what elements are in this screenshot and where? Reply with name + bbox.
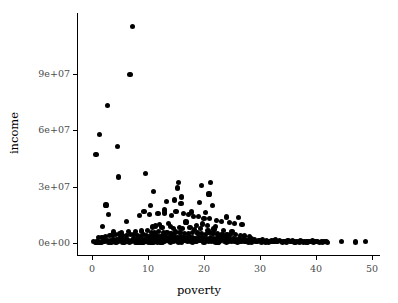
data-point	[138, 239, 143, 244]
data-point	[232, 239, 237, 244]
data-point	[306, 239, 311, 244]
data-point	[139, 228, 144, 233]
data-point	[106, 239, 111, 244]
data-point	[125, 239, 130, 244]
data-point	[136, 238, 141, 243]
data-point	[116, 239, 121, 244]
data-point	[175, 235, 180, 240]
data-point	[187, 234, 192, 239]
data-point	[275, 239, 280, 244]
data-point	[178, 201, 183, 206]
x-tick-label: 20	[198, 264, 210, 274]
data-point	[148, 203, 153, 208]
data-point	[211, 236, 216, 241]
data-point	[176, 237, 181, 242]
data-point	[151, 189, 156, 194]
data-point	[224, 240, 229, 245]
data-point	[183, 238, 188, 243]
data-point	[313, 239, 318, 244]
y-tick-label: 3e+07	[22, 182, 70, 192]
data-point	[159, 240, 164, 245]
data-point	[164, 230, 169, 235]
data-point	[229, 238, 234, 243]
data-point	[161, 237, 166, 242]
data-point	[181, 211, 186, 216]
data-point	[147, 234, 152, 239]
data-point	[220, 236, 225, 241]
data-point	[145, 237, 150, 242]
data-point	[271, 238, 276, 243]
data-point	[197, 200, 202, 205]
data-point	[137, 213, 142, 218]
data-point	[323, 239, 328, 244]
data-point	[172, 197, 177, 202]
data-point	[176, 180, 181, 185]
data-point	[103, 202, 108, 207]
data-point	[180, 237, 185, 242]
data-point	[298, 238, 303, 243]
data-point	[204, 236, 209, 241]
data-point	[178, 234, 183, 239]
data-point	[235, 240, 240, 245]
data-point	[152, 237, 157, 242]
data-point	[228, 232, 233, 237]
data-point	[141, 232, 146, 237]
data-point	[226, 239, 231, 244]
data-point	[111, 237, 116, 242]
data-point	[168, 231, 173, 236]
data-point	[201, 216, 206, 221]
data-point	[259, 239, 264, 244]
x-tick-mark	[372, 256, 373, 260]
data-point	[133, 240, 138, 245]
data-point	[154, 233, 159, 238]
data-point	[150, 224, 155, 229]
data-point	[147, 212, 152, 217]
data-point	[191, 238, 196, 243]
data-point	[149, 240, 154, 245]
data-point	[310, 238, 315, 243]
data-point	[315, 239, 320, 244]
data-point	[214, 236, 219, 241]
x-tick-mark	[92, 256, 93, 260]
data-point	[101, 239, 106, 244]
data-point	[110, 232, 115, 237]
data-point	[166, 235, 171, 240]
data-point	[146, 239, 151, 244]
x-tick-mark	[148, 256, 149, 260]
data-point	[225, 238, 230, 243]
data-point	[252, 237, 257, 242]
data-point	[264, 238, 269, 243]
data-point	[129, 239, 134, 244]
data-point	[274, 239, 279, 244]
data-point	[255, 239, 260, 244]
data-point	[157, 222, 162, 227]
data-point	[202, 238, 207, 243]
data-point	[256, 238, 261, 243]
data-point	[195, 230, 200, 235]
data-point	[262, 239, 267, 244]
data-point	[99, 235, 104, 240]
data-point	[120, 240, 125, 245]
data-point	[192, 227, 197, 232]
data-point	[139, 236, 144, 241]
data-point	[127, 72, 132, 77]
data-point	[163, 238, 168, 243]
y-tick-mark	[73, 187, 77, 188]
data-point	[117, 231, 122, 236]
x-tick-label: 0	[89, 264, 95, 274]
data-point	[106, 212, 111, 217]
data-point	[134, 240, 139, 245]
data-point	[176, 240, 181, 245]
data-point	[155, 211, 160, 216]
data-point	[179, 240, 184, 245]
data-point	[144, 239, 149, 244]
x-tick-label: 10	[142, 264, 154, 274]
data-point	[114, 237, 119, 242]
data-point	[124, 219, 129, 224]
data-point	[219, 232, 224, 237]
data-point	[248, 236, 253, 241]
data-point	[108, 240, 113, 245]
data-point	[205, 223, 210, 228]
data-point	[279, 239, 284, 244]
data-point	[317, 240, 322, 245]
